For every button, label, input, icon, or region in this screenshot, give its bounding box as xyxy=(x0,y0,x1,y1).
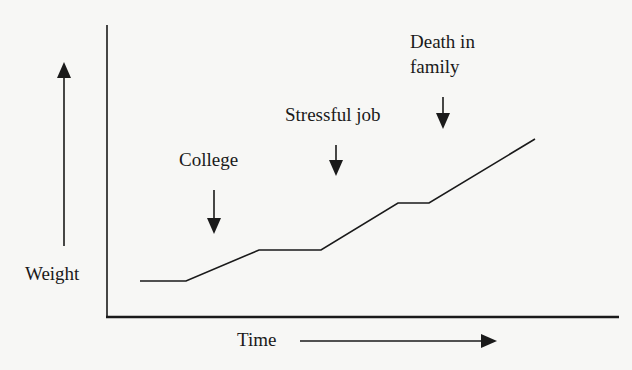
x-axis-label: Time xyxy=(237,329,276,351)
death-in-family-annotation-line1: Death in xyxy=(410,31,475,53)
diagram-graphic xyxy=(0,0,632,370)
stressful-job-annotation: Stressful job xyxy=(285,104,381,126)
weight-time-diagram: Weight Time College Stressful job Death … xyxy=(0,0,632,370)
weight-up-arrow-icon xyxy=(57,62,71,246)
y-axis-label: Weight xyxy=(25,263,79,285)
college-down-arrow-icon xyxy=(207,190,221,234)
stressful-job-down-arrow-icon xyxy=(329,145,343,176)
death-in-family-annotation-line2: family xyxy=(410,56,460,78)
college-annotation: College xyxy=(179,149,238,171)
time-right-arrow-icon xyxy=(300,334,497,348)
death-in-family-down-arrow-icon xyxy=(436,97,450,129)
